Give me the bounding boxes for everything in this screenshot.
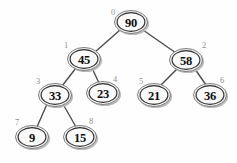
- tree-edge-0-1: [95, 30, 120, 52]
- node-index-label-7: 7: [15, 117, 19, 127]
- tree-node-3[interactable]: 33: [39, 84, 74, 109]
- node-value-label: 21: [148, 89, 160, 103]
- node-index-label-0: 0: [111, 7, 115, 17]
- node-value-label: 90: [125, 16, 137, 30]
- tree-edge-3-8: [63, 104, 76, 127]
- node-value-label: 58: [180, 54, 192, 68]
- node-value-label: 15: [74, 131, 86, 145]
- tree-edge-2-5: [160, 69, 177, 86]
- tree-node-2[interactable]: 58: [170, 49, 205, 74]
- tree-edge-3-7: [37, 104, 47, 127]
- node-index-label-3: 3: [36, 76, 40, 86]
- tree-node-5[interactable]: 21: [138, 84, 173, 109]
- tree-node-7[interactable]: 9: [16, 126, 51, 151]
- node-index-label-2: 2: [202, 40, 206, 50]
- tree-node-8[interactable]: 15: [64, 126, 99, 151]
- tree-node-6[interactable]: 36: [194, 84, 229, 109]
- node-index-label-5: 5: [139, 76, 143, 86]
- node-index-label-4: 4: [113, 74, 118, 84]
- tree-node-0[interactable]: 90: [115, 11, 150, 36]
- tree-edge-1-3: [62, 68, 76, 86]
- binary-tree-diagram: 90455833232136915 012345678: [0, 0, 237, 163]
- tree-edges-layer: [37, 30, 206, 127]
- tree-nodes-layer: 90455833232136915: [16, 11, 229, 151]
- tree-node-4[interactable]: 23: [87, 82, 122, 107]
- node-index-label-8: 8: [89, 116, 93, 126]
- node-value-label: 9: [29, 131, 35, 145]
- node-index-label-6: 6: [220, 75, 224, 85]
- tree-edge-0-2: [143, 30, 176, 53]
- node-value-label: 23: [97, 87, 109, 101]
- node-value-label: 33: [49, 89, 61, 103]
- node-value-label: 45: [78, 53, 90, 67]
- node-index-label-1: 1: [64, 40, 68, 50]
- tree-edge-2-6: [195, 69, 206, 85]
- node-value-label: 36: [204, 89, 216, 103]
- tree-svg-canvas: 90455833232136915 012345678: [0, 0, 237, 163]
